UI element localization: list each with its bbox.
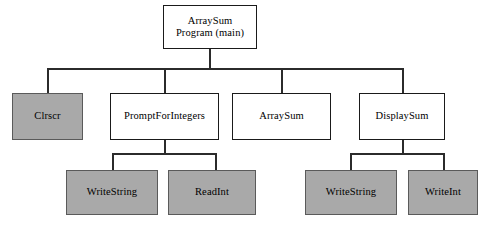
connector-displaysum-to-writestring	[350, 153, 352, 170]
connector-promptforintegers-to-readint	[215, 153, 217, 170]
node-label: DisplaySum	[373, 110, 432, 122]
node-promptforintegers[interactable]: PromptForIntegers	[110, 93, 219, 140]
connector-main-to-displaysum	[402, 68, 404, 93]
node-arraysum[interactable]: ArraySum	[232, 93, 331, 140]
connector-displaysum-bus	[350, 153, 444, 155]
node-label: ArraySum Program (main)	[173, 15, 247, 39]
connector-displaysum-stem	[402, 140, 404, 153]
node-writeint[interactable]: WriteInt	[408, 170, 478, 215]
node-label: PromptForIntegers	[121, 110, 208, 122]
connector-main-to-arraysum	[281, 68, 283, 93]
node-label: ReadInt	[192, 186, 232, 198]
connector-main-to-promptforintegers	[164, 68, 166, 93]
node-label: WriteString	[323, 186, 379, 198]
node-writestring-prompt[interactable]: WriteString	[66, 170, 158, 215]
node-label: Clrscr	[31, 110, 63, 122]
node-clrscr[interactable]: Clrscr	[12, 93, 83, 140]
connector-level1-bus	[47, 68, 403, 70]
connector-main-to-clrscr	[47, 68, 49, 93]
connector-promptforintegers-to-writestring	[112, 153, 114, 170]
connector-promptforintegers-stem	[164, 140, 166, 153]
node-displaysum[interactable]: DisplaySum	[359, 93, 445, 140]
node-label: ArraySum	[256, 110, 307, 122]
connector-promptforintegers-bus	[112, 153, 216, 155]
node-readint[interactable]: ReadInt	[168, 170, 256, 215]
node-arraysum-program-main[interactable]: ArraySum Program (main)	[163, 5, 257, 49]
connector-main-stem	[209, 49, 211, 68]
node-label: WriteInt	[422, 186, 464, 198]
node-label: WriteString	[84, 186, 140, 198]
structure-chart-canvas: ArraySum Program (main) Clrscr PromptFor…	[0, 0, 490, 225]
connector-displaysum-to-writeint	[443, 153, 445, 170]
node-writestring-display[interactable]: WriteString	[305, 170, 397, 215]
